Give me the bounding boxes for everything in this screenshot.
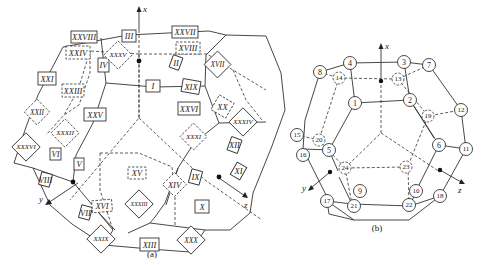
svg-text:XXX: XXX (183, 236, 198, 245)
svg-text:15: 15 (294, 131, 302, 139)
x-axis-b-arrow-icon (379, 43, 384, 49)
svg-text:7: 7 (427, 61, 431, 70)
face-XXV: XXV (84, 108, 106, 121)
svg-text:XXXIV: XXXIV (232, 118, 253, 126)
svg-text:XXXV: XXXV (108, 51, 127, 59)
face-XVI: XVI (92, 199, 113, 213)
svg-text:XXIX: XXIX (92, 235, 109, 243)
y-axis-a (48, 183, 78, 203)
face-VII: VII (79, 205, 93, 220)
face-XXX: XXX (177, 226, 205, 254)
face-XIX: XIX (181, 79, 201, 95)
figure-a-solid-edges (14, 31, 285, 252)
svg-text:11: 11 (463, 145, 470, 153)
face-V: V (74, 158, 84, 170)
svg-text:XXIV: XXIV (68, 48, 89, 58)
x-axis-label-b: x (384, 41, 389, 51)
figure-b-caption: (b) (372, 223, 383, 233)
face-XXI: XXI (38, 72, 56, 85)
z-axis-b-point (438, 168, 442, 172)
svg-text:XVI: XVI (94, 201, 109, 211)
svg-text:XXII: XXII (29, 108, 45, 117)
x-axis-arrow-icon (137, 6, 142, 12)
node-14: 14 (333, 72, 345, 84)
face-XXVIII: XXVIII (71, 31, 97, 43)
node-24: 24 (339, 162, 351, 174)
face-XVIII: XVIII (176, 42, 200, 54)
svg-text:XIII: XIII (142, 240, 158, 250)
figure-a-caption: (a) (147, 249, 157, 259)
node-9: 9 (354, 185, 367, 198)
y-axis-b (311, 172, 330, 188)
figure-canvas: x y z I III IV XXV XXI XXVIII XXVII II X… (0, 0, 483, 265)
svg-text:21: 21 (351, 202, 359, 210)
svg-text:14: 14 (336, 74, 344, 82)
z-axis-a (219, 178, 245, 196)
face-IX: IX (188, 169, 202, 185)
svg-text:16: 16 (300, 151, 308, 159)
svg-text:XXXI: XXXI (185, 133, 202, 141)
svg-text:4: 4 (348, 59, 352, 68)
node-21: 21 (348, 200, 361, 213)
svg-text:XX: XX (216, 102, 228, 112)
svg-text:XXV: XXV (86, 110, 104, 120)
svg-text:IX: IX (190, 172, 200, 182)
svg-text:3: 3 (402, 58, 406, 67)
y-axis-b-point (328, 170, 332, 174)
svg-text:XXVIII: XXVIII (71, 32, 97, 42)
x-axis-b-point (379, 79, 383, 83)
svg-text:XII: XII (228, 140, 241, 150)
svg-text:24: 24 (342, 164, 350, 172)
svg-text:13: 13 (395, 75, 403, 83)
svg-text:2: 2 (408, 96, 412, 105)
node-3: 3 (398, 56, 411, 69)
node-4: 4 (344, 57, 357, 70)
face-II: II (169, 55, 183, 71)
node-23: 23 (400, 161, 412, 173)
y-axis-point (71, 180, 76, 185)
face-XI: XI (230, 162, 247, 180)
face-XII: XII (227, 137, 242, 154)
svg-text:XXVII: XXVII (173, 27, 196, 37)
node-7: 7 (423, 59, 436, 72)
svg-text:12: 12 (458, 106, 466, 114)
face-XXIII: XXIII (62, 84, 84, 97)
face-XXIX: XXIX (87, 225, 115, 253)
node-5: 5 (323, 144, 336, 157)
x-axis-point (137, 59, 142, 64)
svg-text:X: X (198, 202, 205, 212)
node-17: 17 (321, 195, 334, 208)
face-XIV: XIV (162, 172, 186, 196)
y-axis-label-a: y (38, 194, 43, 204)
face-III: III (122, 30, 136, 42)
node-12: 12 (455, 104, 468, 117)
svg-text:XI: XI (233, 166, 243, 176)
svg-text:6: 6 (437, 141, 441, 150)
face-XXXII: XXXII (51, 119, 79, 147)
svg-text:19: 19 (425, 112, 433, 120)
svg-text:II: II (172, 58, 180, 68)
face-X: X (195, 200, 209, 213)
svg-text:III: III (124, 31, 135, 41)
face-VI: VI (50, 148, 61, 160)
face-XXXIV: XXXIV (229, 108, 257, 136)
svg-text:XXXVI: XXXVI (15, 143, 36, 151)
z-axis-label-a: z (243, 200, 248, 210)
z-axis-b (440, 170, 461, 182)
svg-text:5: 5 (327, 146, 331, 155)
svg-text:9: 9 (358, 187, 362, 196)
node-2: 2 (404, 94, 417, 107)
node-20: 20 (313, 134, 325, 146)
node-15: 15 (291, 129, 304, 142)
face-XXXIII: XXXIII (125, 190, 153, 218)
svg-text:23: 23 (403, 163, 411, 171)
svg-text:8: 8 (318, 68, 322, 77)
svg-text:VII: VII (80, 208, 92, 218)
node-6: 6 (433, 139, 446, 152)
svg-text:10: 10 (413, 187, 421, 195)
face-XXXI: XXXI (180, 123, 207, 150)
face-XXIV: XXIV (66, 46, 90, 59)
svg-text:18: 18 (437, 192, 445, 200)
svg-text:22: 22 (406, 201, 414, 209)
svg-text:XV: XV (131, 168, 144, 178)
